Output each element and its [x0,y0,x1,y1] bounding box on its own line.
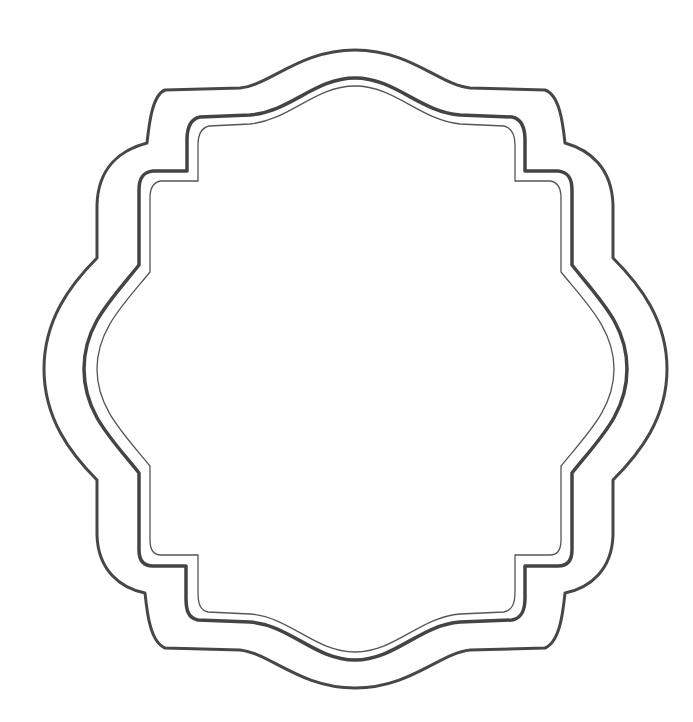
outer-border [44,50,667,688]
middle-border [84,78,627,660]
decorative-frame [0,0,693,722]
frame-svg [0,0,693,722]
